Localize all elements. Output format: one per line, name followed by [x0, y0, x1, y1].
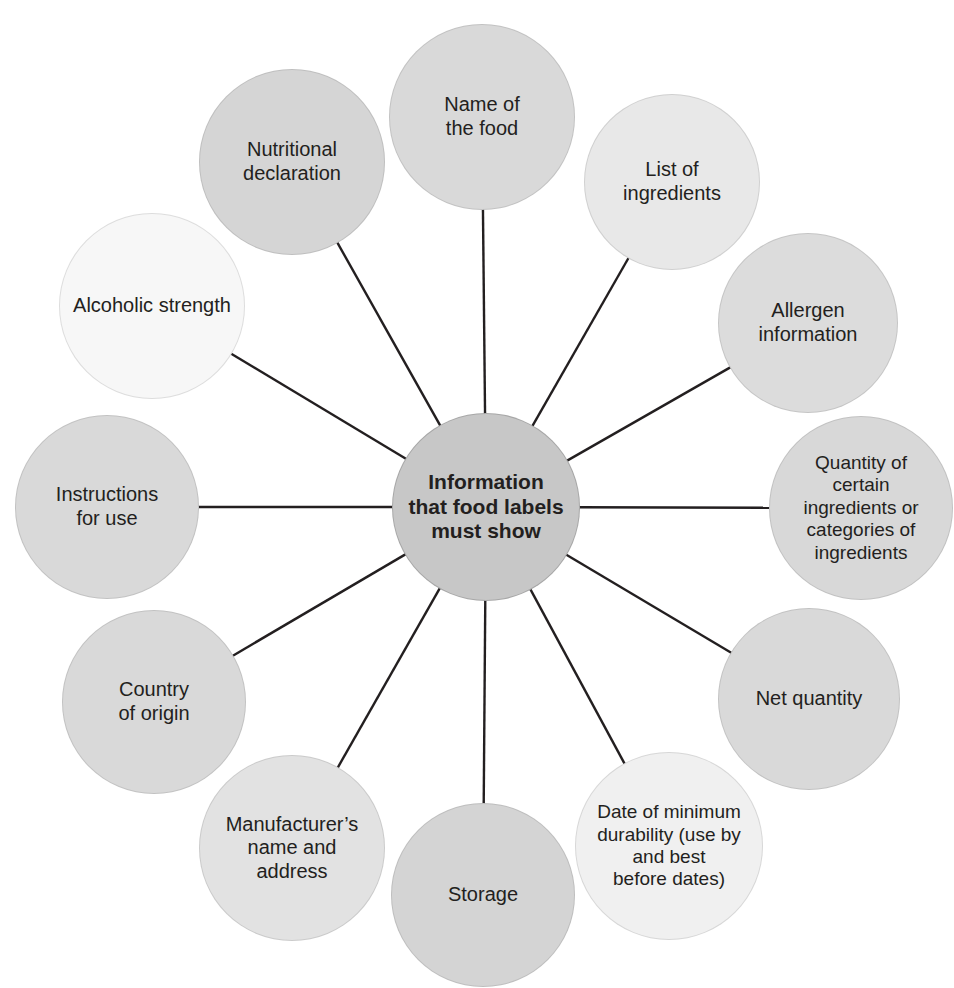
node-alcoholic-strength-label: Alcoholic strength [67, 294, 237, 318]
connector-list-of-ingredients [532, 258, 629, 427]
node-allergen-information-label: Allergen information [753, 299, 864, 346]
node-country-of-origin-label: Country of origin [112, 678, 195, 725]
node-storage-label: Storage [442, 883, 524, 907]
node-list-of-ingredients-label: List of ingredients [617, 158, 727, 205]
connector-quantity-of-certain-ingredients [579, 507, 770, 508]
node-center-hub-label: Information that food labels must show [402, 470, 569, 544]
node-net-quantity-label: Net quantity [750, 687, 869, 711]
connector-storage [484, 600, 486, 804]
node-allergen-information[interactable]: Allergen information [718, 233, 898, 413]
node-nutritional-declaration[interactable]: Nutritional declaration [199, 69, 385, 255]
node-country-of-origin[interactable]: Country of origin [62, 610, 246, 794]
connector-manufacturers-name-and-address [337, 588, 440, 768]
node-manufacturers-name-and-address-label: Manufacturer’s name and address [220, 813, 365, 884]
node-name-of-the-food-label: Name of the food [438, 93, 526, 140]
connector-nutritional-declaration [337, 242, 440, 426]
node-storage[interactable]: Storage [391, 803, 575, 987]
node-net-quantity[interactable]: Net quantity [718, 608, 900, 790]
node-list-of-ingredients[interactable]: List of ingredients [584, 94, 760, 270]
connector-date-of-minimum-durability [530, 589, 625, 764]
connector-allergen-information [567, 367, 731, 461]
node-instructions-for-use[interactable]: Instructions for use [15, 415, 199, 599]
node-manufacturers-name-and-address[interactable]: Manufacturer’s name and address [199, 755, 385, 941]
connector-name-of-the-food [483, 209, 485, 414]
node-date-of-minimum-durability[interactable]: Date of minimum durability (use by and b… [575, 752, 763, 940]
node-nutritional-declaration-label: Nutritional declaration [237, 138, 347, 185]
node-date-of-minimum-durability-label: Date of minimum durability (use by and b… [591, 801, 747, 891]
food-label-information-diagram: Name of the foodList of ingredientsAller… [0, 0, 954, 988]
connector-country-of-origin [232, 554, 405, 656]
node-name-of-the-food[interactable]: Name of the food [389, 24, 575, 210]
node-center-hub[interactable]: Information that food labels must show [392, 413, 580, 601]
connector-net-quantity [566, 555, 732, 653]
node-quantity-of-certain-ingredients[interactable]: Quantity of certain ingredients or categ… [769, 416, 953, 600]
connector-alcoholic-strength [231, 353, 406, 459]
node-quantity-of-certain-ingredients-label: Quantity of certain ingredients or categ… [797, 452, 924, 564]
node-alcoholic-strength[interactable]: Alcoholic strength [59, 213, 245, 399]
node-instructions-for-use-label: Instructions for use [50, 483, 164, 530]
